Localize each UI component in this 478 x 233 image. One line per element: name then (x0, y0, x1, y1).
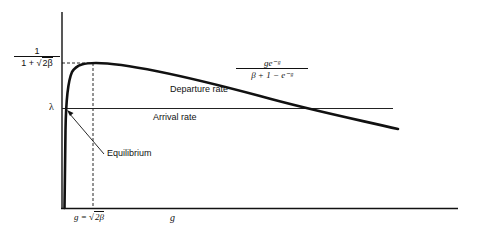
peak-value-numerator: 1 (14, 46, 60, 56)
formula-denominator: β + 1 − e⁻ᵍ (236, 68, 308, 80)
departure-rate-curve (65, 63, 399, 208)
equilibrium-label: Equilibrium (107, 148, 152, 158)
peak-position-label: g = √2β (74, 212, 104, 222)
equilibrium-arrowhead-icon (67, 110, 74, 116)
peak-value-denominator: 1 + √2β (14, 56, 60, 68)
departure-rate-label: Departure rate (170, 84, 228, 94)
equilibrium-pointer-line (69, 113, 104, 154)
lambda-label: λ (49, 101, 54, 112)
arrival-rate-label: Arrival rate (153, 112, 197, 122)
diagram-canvas (0, 0, 478, 233)
peak-value-label: 1 1 + √2β (14, 46, 60, 68)
departure-rate-formula: ge⁻ᵍ β + 1 − e⁻ᵍ (236, 58, 308, 80)
x-axis-label: g (170, 212, 175, 223)
formula-numerator: ge⁻ᵍ (236, 58, 308, 68)
